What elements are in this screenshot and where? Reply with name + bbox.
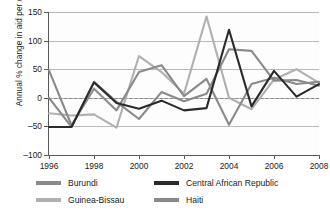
x-tick-label: 2000: [130, 161, 149, 171]
legend-swatch: [36, 198, 61, 201]
legend-label: Haiti: [186, 195, 203, 205]
x-tick: [94, 155, 95, 159]
legend-swatch: [154, 181, 179, 184]
x-tick: [229, 155, 230, 159]
legend-swatch: [36, 181, 61, 184]
y-tick-label: –50: [28, 121, 42, 131]
x-tick-label: 1998: [85, 161, 104, 171]
x-tick-label: 2002: [175, 161, 194, 171]
x-tick-label: 1996: [40, 161, 59, 171]
y-tick-label: 0: [37, 93, 42, 103]
y-tick-label: 150: [28, 7, 42, 17]
x-tick: [274, 155, 275, 159]
legend-label: Central African Republic: [186, 178, 278, 188]
legend-item-haiti[interactable]: Haiti: [154, 195, 322, 205]
legend-item-burundi[interactable]: Burundi: [36, 178, 154, 188]
y-tick-label: –100: [23, 150, 42, 160]
chart-legend: BurundiCentral African RepublicGuinea-Bi…: [36, 178, 322, 205]
x-tick: [184, 155, 185, 159]
x-tick-label: 2004: [220, 161, 239, 171]
chart-container: Annual % change in aid per capita 150100…: [0, 0, 330, 217]
series-line: [49, 65, 319, 125]
x-tick: [319, 155, 320, 159]
x-tick: [139, 155, 140, 159]
legend-label: Burundi: [68, 178, 98, 188]
x-tick: [49, 155, 50, 159]
legend-swatch: [154, 198, 179, 201]
x-tick-label: 2008: [310, 161, 329, 171]
plot-area: 150100500–50–100 19961998200020022004200…: [48, 12, 319, 156]
legend-item-central-african-republic[interactable]: Central African Republic: [154, 178, 322, 188]
legend-item-guinea-bissau[interactable]: Guinea-Bissau: [36, 195, 154, 205]
legend-label: Guinea-Bissau: [68, 195, 124, 205]
series-layer: [49, 12, 319, 155]
x-tick-label: 2006: [265, 161, 284, 171]
y-axis-title: Annual % change in aid per capita: [15, 0, 24, 118]
y-tick-label: 100: [28, 36, 42, 46]
y-tick-label: 50: [33, 64, 42, 74]
